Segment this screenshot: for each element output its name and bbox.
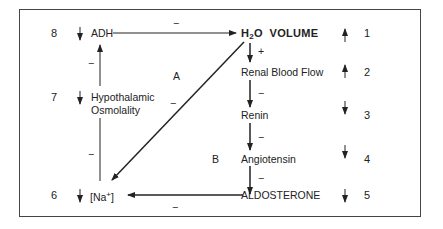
node-renal-blood-flow: Renal Blood Flow [241,66,323,78]
diagram-arrows [0,0,443,229]
node-renin: Renin [241,109,268,121]
label-3: 3 [364,109,370,121]
sign-na-hypo: − [88,148,94,160]
node-hypothalamic-line2: Osmolality [91,104,140,116]
label-1: 1 [364,27,370,39]
node-h2o-volume: H2O VOLUME [241,27,318,43]
sign-hypo-adh: − [88,57,94,69]
region-label-a: A [173,70,180,82]
label-5: 5 [364,189,370,201]
label-6: 6 [51,189,57,201]
label-7: 7 [51,91,57,103]
node-hypothalamic-line1: Hypothalamic [91,91,155,103]
sign-h2o-na: − [170,97,176,109]
node-sodium: [Na+] [90,189,114,203]
sign-renin-angiotensin: − [258,131,264,143]
sign-adh-h2o: − [173,17,179,29]
node-angiotensin: Angiotensin [241,153,296,165]
region-label-b: B [212,153,219,165]
sign-h2o-rbf: + [258,45,264,57]
sign-rbf-renin: − [258,87,264,99]
label-8: 8 [51,27,57,39]
label-2: 2 [364,66,370,78]
node-aldosterone: ALDOSTERONE [241,189,320,201]
sign-angiotensin-aldosterone: − [258,172,264,184]
sign-aldosterone-na: − [172,201,178,213]
node-adh: ADH [91,27,113,39]
label-4: 4 [364,153,370,165]
